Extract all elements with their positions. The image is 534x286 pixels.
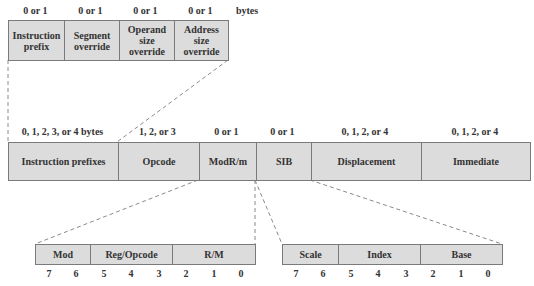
modrm-bit-1: 1 [207,268,221,279]
field-rm: R/M [172,245,255,264]
operand-size-label: 0 or 1 [118,5,173,16]
field-text: size [194,35,210,46]
instruction-format-box: Instruction prefixes Opcode ModR/m SIB D… [8,142,531,181]
field-displacement: Displacement [311,143,421,180]
field-text: size [139,35,155,46]
sib-size-label: 0 or 1 [255,126,310,137]
field-address-size-override: Address size override [174,21,228,60]
sib-bit-5: 5 [344,268,358,279]
field-text: prefix [24,41,49,52]
field-instruction-prefix: Instruction prefix [9,21,64,60]
field-base: Base [420,245,502,264]
displacement-size-label: 0, 1, 2, or 4 [310,126,420,137]
field-text: override [183,46,219,57]
field-index: Index [338,245,420,264]
field-text: Instruction [13,30,61,41]
prefix-size-label: 0 or 1 [8,5,63,16]
field-mod: Mod [36,245,90,264]
field-operand-size-override: Operand size override [119,21,174,60]
field-text: override [129,46,165,57]
field-immediate: Immediate [421,143,530,180]
field-text: Operand [128,24,166,35]
sib-bit-4: 4 [371,268,385,279]
modrm-bit-5: 5 [97,268,111,279]
modrm-bit-6: 6 [69,268,83,279]
field-segment-override: Segment override [64,21,119,60]
segment-size-label: 0 or 1 [63,5,118,16]
sib-bit-1: 1 [454,268,468,279]
sib-detail-box: Scale Index Base [282,244,503,265]
sib-bit-0: 0 [481,268,495,279]
field-text: Address [184,24,219,35]
modrm-left-connector [35,180,198,244]
immediate-size-label: 0, 1, 2, or 4 [420,126,530,137]
sib-left-connector [255,180,282,244]
field-text: override [74,41,110,52]
field-text: Segment [74,30,111,41]
field-modrm: ModR/m [199,143,256,180]
field-instruction-prefixes: Instruction prefixes [9,143,118,180]
sib-bit-6: 6 [316,268,330,279]
field-sib: SIB [256,143,311,180]
modrm-bit-2: 2 [179,268,193,279]
field-opcode: Opcode [118,143,199,180]
sib-bit-7: 7 [289,268,303,279]
field-scale: Scale [283,245,338,264]
modrm-detail-box: Mod Reg/Opcode R/M [35,244,256,265]
prefix-detail-box: Instruction prefix Segment override Oper… [8,20,229,61]
address-size-label: 0 or 1 [173,5,228,16]
opcode-size-label: 1, 2, or 3 [117,126,198,137]
sib-bit-3: 3 [399,268,413,279]
modrm-bit-3: 3 [152,268,166,279]
modrm-size-label: 0 or 1 [198,126,255,137]
field-reg-opcode: Reg/Opcode [90,245,172,264]
bytes-unit-label: bytes [232,5,262,16]
modrm-bit-0: 0 [234,268,248,279]
modrm-bit-7: 7 [42,268,56,279]
sib-bit-2: 2 [426,268,440,279]
prefixes-size-label: 0, 1, 2, 3, or 4 bytes [8,126,117,137]
sib-right-connector [310,180,502,244]
modrm-bit-4: 4 [124,268,138,279]
